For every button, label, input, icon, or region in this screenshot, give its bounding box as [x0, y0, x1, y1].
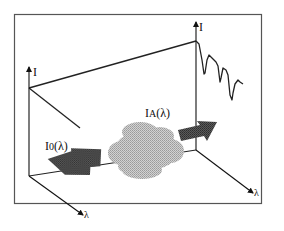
incident-intensity-argument: (λ)	[54, 139, 68, 153]
left-wavelength-axis	[29, 176, 83, 215]
right-intensity-axis-label: I	[199, 21, 203, 33]
back-plane-top-edge	[29, 41, 196, 88]
right-wavelength-axis	[196, 150, 253, 193]
incident-intensity-label: I0(λ)	[45, 140, 68, 152]
diagram-canvas	[0, 0, 284, 231]
absorption-spectrum	[196, 41, 243, 100]
absorption-diagram: I λ I λ I0(λ) IA(λ)	[0, 0, 284, 231]
transmitted-intensity-label: IA(λ)	[145, 107, 170, 119]
right-wavelength-axis-label: λ	[254, 188, 259, 198]
left-intensity-axis-label: I	[33, 66, 37, 78]
transmitted-light-arrow	[178, 121, 217, 141]
left-spectrum-diagonal	[29, 88, 80, 128]
transmitted-intensity-argument: (λ)	[156, 106, 170, 120]
left-wavelength-axis-label: λ	[84, 210, 89, 220]
absorbing-cloud	[108, 122, 184, 179]
